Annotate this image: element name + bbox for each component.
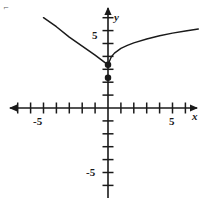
axes-group: [9, 7, 198, 198]
y-axis-top-arrowhead: [104, 7, 111, 15]
y-tick-label-positive-5: 5: [92, 30, 98, 41]
y-axis-label: y: [114, 12, 119, 23]
x-axis-label: x: [192, 111, 198, 122]
marked-point-lower-endpoint: [105, 75, 110, 80]
coordinate-plane-svg: [0, 0, 200, 200]
x-axis-left-arrowhead: [9, 104, 17, 111]
y-tick-label-negative-5: -5: [86, 167, 95, 178]
x-tick-label-positive-5: 5: [169, 116, 175, 127]
x-tick-label-negative-5: -5: [33, 116, 42, 127]
marked-point-upper-endpoint: [105, 62, 110, 67]
sqrt-curve-series: [108, 29, 198, 65]
graph-figure: ⌐: [0, 0, 200, 200]
linear-ray-series: [44, 18, 109, 65]
